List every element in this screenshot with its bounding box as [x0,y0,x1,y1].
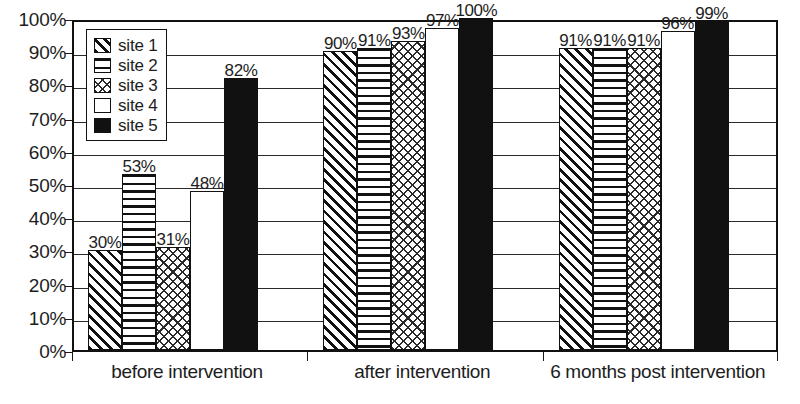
bar [156,247,190,350]
y-axis-tick-label: 10% [4,309,66,328]
bar-chart: 100%90%80%70%60%50%40%30%20%10%0% 30%53%… [0,0,800,404]
bar-value-label: 91% [627,32,660,49]
bar [88,250,122,350]
legend-swatch-icon [94,58,111,73]
legend-swatch-icon [94,118,111,133]
bar [190,191,224,350]
legend-item-label: site 3 [118,77,157,94]
x-axis-tick-mark [777,352,778,361]
bar-value-label: 91% [358,32,391,49]
bar-value-label: 97% [426,12,459,29]
y-axis-tick-mark [65,352,72,353]
bar [425,28,459,350]
legend-swatch-icon [94,38,111,53]
y-axis-tick-mark [65,86,72,87]
bar-value-label: 30% [89,234,122,251]
legend-item-site-3: site 3 [94,75,157,95]
y-axis-tick-label: 60% [4,143,66,162]
x-axis-tick-mark [543,352,544,361]
bar-value-label: 93% [392,25,425,42]
y-axis-tick-mark [65,120,72,121]
bar [627,48,661,350]
legend-item-site-2: site 2 [94,55,157,75]
bar-value-label: 31% [157,231,190,248]
y-axis-tick-label: 30% [4,242,66,261]
x-axis-category-label: before intervention [111,361,263,383]
y-axis-tick-mark [65,319,72,320]
y-axis-tick-mark [65,286,72,287]
bar-value-label: 99% [695,5,728,22]
legend-item-site-5: site 5 [94,115,157,135]
x-axis-tick-mark [72,352,73,361]
legend-item-label: site 2 [118,57,157,74]
x-axis-category-label: after intervention [354,361,490,383]
bar-value-label: 53% [123,158,156,175]
legend-item-site-4: site 4 [94,95,157,115]
bar-value-label: 82% [225,62,258,79]
legend-item-label: site 5 [118,117,157,134]
x-axis-tick-mark [307,352,308,361]
legend-swatch-icon [94,78,111,93]
y-axis-tick-mark [65,20,72,21]
bar [459,18,493,350]
legend-swatch-icon [94,98,111,113]
clipped-caption-remnant [0,392,800,404]
y-axis-tick-mark [65,186,72,187]
bar [122,174,156,350]
y-axis-tick-mark [65,53,72,54]
y-axis-tick-label: 70% [4,110,66,129]
bar [391,41,425,350]
legend-item-site-1: site 1 [94,35,157,55]
y-axis-tick-label: 20% [4,276,66,295]
bar [224,78,258,350]
bar [593,48,627,350]
bar-value-label: 100% [455,2,497,19]
bar-value-label: 48% [191,175,224,192]
y-axis-tick-label: 50% [4,176,66,195]
y-axis: 100%90%80%70%60%50%40%30%20%10%0% [0,0,66,404]
bar [323,51,357,350]
y-axis-tick-mark [65,219,72,220]
legend: site 1site 2site 3site 4site 5 [86,29,167,141]
y-axis-tick-mark [65,153,72,154]
plot-area: 30%53%31%48%82%90%91%93%97%100%91%91%91%… [72,20,778,352]
bar-value-label: 91% [593,32,626,49]
y-axis-tick-label: 80% [4,76,66,95]
bar [695,21,729,350]
y-axis-tick-mark [65,252,72,253]
y-axis-tick-label: 100% [4,10,66,29]
x-axis-category-label: 6 months post intervention [550,361,765,383]
y-axis-tick-label: 0% [4,342,66,361]
bar-value-label: 96% [661,15,694,32]
legend-item-label: site 1 [118,37,157,54]
bar [357,48,391,350]
bar-value-label: 90% [324,35,357,52]
legend-item-label: site 4 [118,97,157,114]
bar [559,48,593,350]
bar [661,31,695,350]
y-axis-tick-label: 40% [4,209,66,228]
x-axis: before interventionafter intervention6 m… [0,361,800,389]
bar-value-label: 91% [559,32,592,49]
y-axis-tick-label: 90% [4,43,66,62]
